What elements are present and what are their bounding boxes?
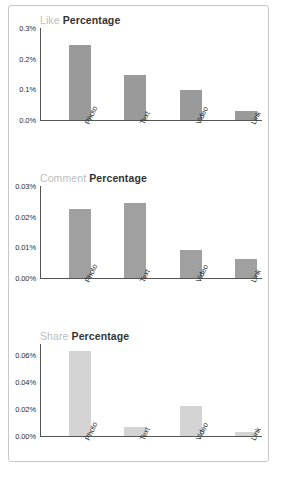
- bar-text: [124, 203, 146, 278]
- bar-photo: [69, 351, 91, 436]
- y-axis-tick-label: 0.03%: [15, 182, 36, 191]
- chart-panel-comment-percentage: Comment Percentage 0.00%0.01%0.02%0.03% …: [9, 167, 270, 319]
- x-axis-line: [40, 120, 262, 121]
- y-axis-tick-label: 0.0%: [19, 116, 36, 125]
- y-axis-line: [40, 28, 41, 120]
- chart-title-share-percentage: Share Percentage: [40, 330, 129, 342]
- chart-title-word-strong: Percentage: [72, 330, 130, 342]
- x-axis-labels-comment-percentage: PhotoTextVideoLink: [40, 280, 262, 318]
- plot-area-share-percentage: 0.00%0.02%0.04%0.06%: [40, 344, 262, 436]
- chart-title-comment-percentage: Comment Percentage: [40, 172, 147, 184]
- y-axis-tick-label: 0.3%: [19, 24, 36, 33]
- x-axis-line: [40, 436, 262, 437]
- y-axis-tick-label: 0.01%: [15, 243, 36, 252]
- y-axis-tick-label: 0.1%: [19, 85, 36, 94]
- y-axis-tick-label: 0.02%: [15, 404, 36, 413]
- y-axis-tick-label: 0.00%: [15, 432, 36, 441]
- x-axis-line: [40, 278, 262, 279]
- chart-title-word-muted: Comment: [40, 172, 86, 184]
- chart-title-word-muted: Share: [40, 330, 69, 342]
- chart-title-word-strong: Percentage: [63, 14, 121, 26]
- chart-title-word-muted: Like: [40, 14, 60, 26]
- y-axis-tick-label: 0.06%: [15, 350, 36, 359]
- chart-panel-like-percentage: Like Percentage 0.0%0.1%0.2%0.3% PhotoTe…: [9, 9, 270, 161]
- x-axis-labels-like-percentage: PhotoTextVideoLink: [40, 122, 262, 160]
- x-axis-labels-share-percentage: PhotoTextVideoLink: [40, 438, 262, 476]
- chart-card: Like Percentage 0.0%0.1%0.2%0.3% PhotoTe…: [8, 5, 269, 462]
- y-axis-tick-label: 0.2%: [19, 54, 36, 63]
- chart-title-word-strong: Percentage: [89, 172, 147, 184]
- plot-area-like-percentage: 0.0%0.1%0.2%0.3%: [40, 28, 262, 120]
- bar-photo: [69, 45, 91, 120]
- y-axis-line: [40, 186, 41, 278]
- y-axis-tick-label: 0.02%: [15, 212, 36, 221]
- y-axis-tick-label: 0.00%: [15, 274, 36, 283]
- y-axis-tick-label: 0.04%: [15, 377, 36, 386]
- y-axis-line: [40, 344, 41, 436]
- chart-panel-share-percentage: Share Percentage 0.00%0.02%0.04%0.06% Ph…: [9, 325, 270, 477]
- chart-title-like-percentage: Like Percentage: [40, 14, 120, 26]
- plot-area-comment-percentage: 0.00%0.01%0.02%0.03%: [40, 186, 262, 278]
